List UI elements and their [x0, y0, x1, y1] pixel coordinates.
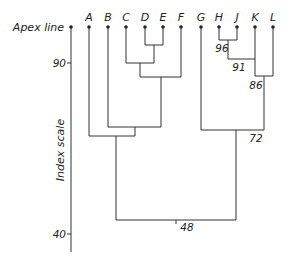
leaf-label-j: J — [233, 11, 238, 24]
leaf-label-l: L — [270, 11, 276, 24]
node-label-86: 86 — [249, 79, 263, 91]
apex-line-label: Apex line — [12, 21, 64, 34]
leaf-label-d: D — [141, 11, 149, 24]
node-label-96: 96 — [215, 42, 229, 54]
leaf-label-f: F — [178, 11, 185, 24]
dendrogram: Apex line 90 40 Index scale A B C D E F … — [0, 0, 291, 263]
root-join — [116, 130, 236, 224]
index-scale-label: Index scale — [54, 119, 67, 182]
leaf-labels: A B C D E F G H J K L — [84, 11, 276, 24]
tick-90-label: 90 — [53, 57, 67, 69]
node-label-48: 48 — [180, 221, 194, 233]
apex-dot — [69, 25, 73, 29]
node-label-72: 72 — [249, 132, 263, 144]
cluster-a-f — [89, 27, 181, 136]
leaf-label-a: A — [84, 11, 93, 24]
leaf-label-e: E — [160, 11, 167, 24]
tick-40-label: 40 — [53, 228, 67, 240]
node-label-91: 91 — [232, 61, 245, 73]
leaf-label-b: B — [104, 11, 112, 24]
leaf-label-k: K — [251, 11, 259, 24]
leaf-label-c: C — [122, 11, 130, 24]
index-scale-axis — [67, 25, 73, 252]
leaf-label-g: G — [197, 11, 206, 24]
leaf-label-h: H — [215, 11, 223, 24]
